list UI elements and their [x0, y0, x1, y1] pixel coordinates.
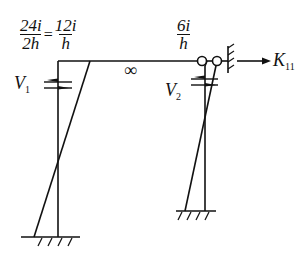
right-moment-label: 6i h	[175, 17, 192, 52]
shear-v2-label: V2	[165, 80, 181, 102]
frame-diagram: 24i 2h = 12i h 6i h ∞ V1 V2 K11	[0, 0, 301, 257]
left-support-hatch-icon	[38, 238, 72, 246]
right-moment-line	[185, 61, 217, 211]
right-support-hatch-icon	[178, 212, 209, 220]
arrow-head-icon	[262, 58, 271, 65]
left-moment-label: 24i 2h = 12i h	[18, 17, 79, 52]
k11-label: K11	[273, 50, 295, 72]
wall-hatch-icon	[228, 44, 234, 69]
beam-stiffness-infinity: ∞	[124, 60, 137, 81]
hinge-icon	[198, 57, 207, 66]
hinge-icon	[213, 57, 222, 66]
shear-v1-label: V1	[14, 73, 30, 95]
